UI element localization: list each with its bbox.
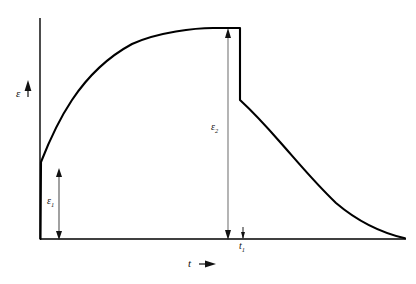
t1-subscript: 1 xyxy=(242,246,245,253)
y-axis-label: ε xyxy=(16,88,20,99)
plot-canvas xyxy=(0,0,416,284)
eps1-measure-arrow xyxy=(56,168,62,240)
t1-tick-mark xyxy=(241,227,245,239)
eps2-measure-arrow xyxy=(225,28,231,240)
eps2-label: ε2 xyxy=(211,122,218,134)
t1-label: t1 xyxy=(239,241,245,253)
creep-recovery-figure: ε t ε1 ε2 t1 xyxy=(0,0,416,284)
y-axis-up-arrow-icon xyxy=(25,80,32,97)
eps1-label: ε1 xyxy=(47,196,54,208)
x-axis-right-arrow-icon xyxy=(199,261,216,268)
eps2-subscript: 2 xyxy=(215,127,218,134)
eps1-subscript: 1 xyxy=(51,201,54,208)
x-axis-label: t xyxy=(188,258,191,269)
strain-curve xyxy=(41,28,406,239)
